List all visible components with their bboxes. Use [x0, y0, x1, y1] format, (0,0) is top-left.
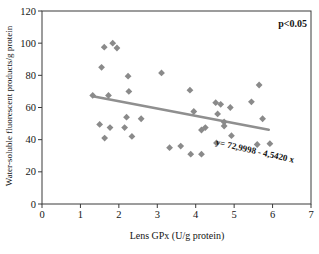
y-tick-label: 60: [26, 102, 37, 113]
data-point: [187, 87, 194, 94]
data-point: [214, 111, 221, 118]
data-point: [98, 64, 105, 71]
data-point: [266, 140, 273, 147]
data-point: [198, 151, 205, 158]
data-point: [227, 104, 234, 111]
data-point: [114, 45, 121, 52]
x-tick-label: 1: [78, 209, 83, 220]
data-point: [125, 88, 132, 95]
data-point: [256, 82, 263, 89]
y-tick-label: 0: [31, 199, 36, 210]
data-point: [123, 114, 130, 121]
data-point: [138, 115, 145, 122]
data-point: [259, 115, 266, 122]
data-point: [166, 144, 173, 151]
data-point: [129, 133, 136, 140]
data-point: [158, 70, 165, 77]
data-point: [228, 132, 235, 139]
x-tick-label: 3: [155, 209, 160, 220]
p-value-annotation: p<0.05: [278, 18, 307, 29]
data-point: [109, 40, 116, 47]
data-point: [248, 98, 255, 105]
y-tick-label: 20: [26, 166, 37, 177]
x-tick-label: 7: [308, 209, 313, 220]
y-tick-label: 120: [20, 6, 36, 17]
data-point: [125, 73, 132, 80]
data-point: [107, 124, 114, 131]
data-point: [96, 121, 103, 128]
x-axis-title: Lens GPx (U/g protein): [130, 230, 225, 241]
data-point: [221, 123, 228, 130]
x-tick-label: 0: [39, 209, 44, 220]
data-point: [101, 135, 108, 142]
y-axis-title: Water-soluble fluorescent products/g pro…: [4, 26, 14, 186]
data-point: [177, 143, 184, 150]
y-tick-label: 40: [26, 134, 37, 145]
data-point: [121, 124, 128, 131]
x-tick-label: 4: [193, 209, 199, 220]
x-tick-label: 5: [232, 209, 237, 220]
y-tick-label: 80: [26, 70, 37, 81]
trend-line: [93, 96, 269, 129]
data-point: [187, 151, 194, 158]
x-tick-label: 2: [116, 209, 121, 220]
plot-frame: [42, 11, 311, 204]
x-tick-label: 6: [270, 209, 275, 220]
scatter-plot-figure: 01234567020406080100120 Water-soluble fl…: [0, 0, 319, 254]
y-tick-label: 100: [20, 38, 36, 49]
plot-area: 01234567020406080100120: [0, 0, 319, 254]
data-point: [101, 44, 108, 51]
